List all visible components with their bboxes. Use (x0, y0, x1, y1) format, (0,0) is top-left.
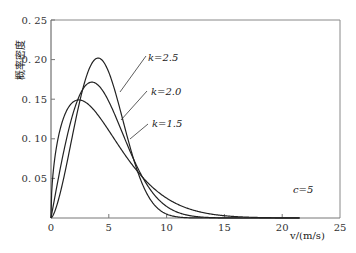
label-k15: k=1.5 (152, 118, 182, 129)
label-k20: k=2.0 (151, 86, 182, 97)
y-tick-label: 0. 25 (22, 15, 47, 26)
x-tick-label: 0 (48, 222, 54, 233)
label-k25: k=2.5 (148, 52, 178, 63)
x-tick-label: 10 (160, 222, 173, 233)
leader-k20 (121, 91, 147, 120)
weibull-pdf-chart: 05101520250. 050. 100. 150. 200. 25 k=2.… (0, 0, 356, 253)
leader-k25 (120, 56, 146, 92)
x-axis-label: v/(m/s) (289, 230, 325, 241)
x-tick-label: 20 (276, 222, 289, 233)
annotations: k=2.5k=2.0k=1.5c=5v/(m/s)概率密度 (14, 40, 325, 241)
y-tick-label: 0. 05 (22, 173, 47, 184)
y-tick-label: 0. 10 (22, 133, 47, 144)
curve-k=2.0 (51, 82, 300, 218)
y-axis-label: 概率密度 (14, 40, 26, 80)
curves (51, 58, 300, 218)
leader-k15 (130, 124, 148, 139)
label-c: c=5 (293, 184, 313, 195)
y-tick-label: 0. 15 (22, 94, 47, 105)
x-tick-label: 5 (106, 222, 112, 233)
x-tick-label: 25 (334, 222, 347, 233)
x-tick-label: 15 (218, 222, 231, 233)
curve-k=2.5 (51, 58, 300, 218)
